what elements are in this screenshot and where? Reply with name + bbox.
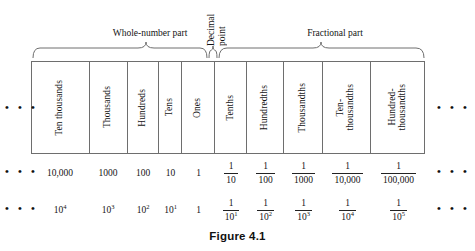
power-of-ten-3: 101 bbox=[159, 194, 182, 226]
ellipsis-values-left: • • • bbox=[5, 165, 38, 177]
exponent: 5 bbox=[402, 209, 405, 216]
exponent: 4 bbox=[63, 203, 66, 210]
place-value-table: Ten thousandsThousandsHundredsTensOnesTe… bbox=[31, 61, 425, 154]
place-value-4: 1 bbox=[182, 156, 215, 190]
power-of-ten-9: 1105 bbox=[372, 194, 425, 226]
place-value-9: 1100,000 bbox=[372, 156, 425, 190]
place-value-6: 1100 bbox=[247, 156, 284, 190]
fraction-denominator: 10,000 bbox=[332, 175, 362, 185]
exponent: 1 bbox=[174, 203, 177, 210]
powers-of-ten-row: 104103102101111011102110311041105 bbox=[31, 194, 425, 226]
power-of-ten-1: 103 bbox=[89, 194, 127, 226]
value-text: 1 bbox=[196, 168, 201, 178]
place-value-8: 110,000 bbox=[323, 156, 372, 190]
whole-number-brace bbox=[33, 42, 207, 58]
place-value-0: 10,000 bbox=[31, 156, 89, 190]
fraction-numerator: 1 bbox=[299, 161, 308, 171]
place-value-column-6: Hundredths bbox=[247, 62, 284, 153]
power-of-ten-2: 102 bbox=[127, 194, 159, 226]
ellipsis-values-right: • • • bbox=[437, 165, 470, 177]
fraction-numerator: 1 bbox=[343, 161, 352, 171]
power-of-ten-4: 1 bbox=[182, 194, 215, 226]
column-label: Ten- thousandths bbox=[336, 84, 356, 131]
exponent: 4 bbox=[351, 209, 354, 216]
power-text: 102 bbox=[137, 205, 150, 215]
ellipsis-powers-right: • • • bbox=[437, 202, 470, 214]
whole-number-part-label: Whole-number part bbox=[80, 28, 220, 38]
column-label: Hundreds bbox=[138, 89, 148, 127]
fraction-numerator: 1 bbox=[299, 198, 308, 208]
ellipsis-powers-left: • • • bbox=[5, 202, 38, 214]
place-value-column-0: Ten thousands bbox=[32, 62, 90, 153]
column-label: Tens bbox=[165, 98, 175, 116]
column-label: Tenths bbox=[226, 95, 236, 121]
power-of-ten-0: 104 bbox=[31, 194, 89, 226]
fraction-denominator: 10 bbox=[224, 175, 238, 185]
power-of-ten-7: 1103 bbox=[284, 194, 323, 226]
place-value-column-5: Tenths bbox=[215, 62, 247, 153]
place-value-column-8: Ten- thousandths bbox=[323, 62, 372, 153]
exponent: 3 bbox=[307, 209, 310, 216]
place-value-column-2: Hundreds bbox=[128, 62, 160, 153]
decimal-point-label-line1: Decimal bbox=[206, 6, 216, 46]
fraction-numerator: 1 bbox=[394, 161, 403, 171]
fraction: 1103 bbox=[295, 198, 312, 221]
fraction-denominator: 1000 bbox=[292, 175, 315, 185]
fraction-bar bbox=[292, 173, 315, 174]
fraction: 110 bbox=[224, 161, 238, 184]
value-text: 1000 bbox=[99, 168, 118, 178]
column-label: Thousandths bbox=[298, 83, 308, 133]
place-value-column-9: Hundred- thousandths bbox=[371, 62, 424, 153]
place-value-2: 100 bbox=[127, 156, 159, 190]
fraction-denominator: 100,000 bbox=[381, 175, 416, 185]
fraction: 1105 bbox=[390, 198, 407, 221]
fraction-denominator: 104 bbox=[339, 212, 356, 222]
column-label: Ten thousands bbox=[55, 80, 65, 136]
power-text: 101 bbox=[164, 205, 177, 215]
fraction-denominator: 102 bbox=[257, 212, 274, 222]
place-value-5: 110 bbox=[215, 156, 247, 190]
fraction-bar bbox=[256, 173, 274, 174]
value-text: 10,000 bbox=[47, 168, 73, 178]
decimal-point-brace bbox=[209, 46, 217, 58]
column-label: Hundred- thousandths bbox=[388, 84, 408, 131]
fractional-part-brace bbox=[219, 42, 424, 58]
fraction-bar bbox=[224, 173, 238, 174]
exponent: 2 bbox=[269, 209, 272, 216]
place-value-column-1: Thousands bbox=[90, 62, 128, 153]
fraction-denominator: 100 bbox=[256, 175, 274, 185]
place-value-column-4: Ones bbox=[182, 62, 215, 153]
power-of-ten-6: 1102 bbox=[247, 194, 284, 226]
power-of-ten-8: 1104 bbox=[323, 194, 372, 226]
column-label: Hundredths bbox=[260, 85, 270, 130]
fraction: 1104 bbox=[339, 198, 356, 221]
place-value-column-3: Tens bbox=[159, 62, 182, 153]
fraction-denominator: 101 bbox=[223, 212, 240, 222]
place-value-chart-figure: Whole-number part Fractional part Decima… bbox=[0, 0, 475, 251]
column-label: Thousands bbox=[103, 86, 113, 128]
place-value-7: 11000 bbox=[284, 156, 323, 190]
fraction-denominator: 105 bbox=[390, 212, 407, 222]
value-text: 100 bbox=[136, 168, 150, 178]
fraction: 1101 bbox=[223, 198, 240, 221]
ellipsis-table-right: • • • bbox=[437, 101, 470, 113]
fraction-numerator: 1 bbox=[261, 161, 270, 171]
decimal-point-label-line2: point bbox=[217, 6, 227, 46]
place-value-3: 10 bbox=[159, 156, 182, 190]
power-text: 103 bbox=[102, 205, 115, 215]
place-value-1: 1000 bbox=[89, 156, 127, 190]
exponent: 3 bbox=[111, 203, 114, 210]
fraction-numerator: 1 bbox=[343, 198, 352, 208]
fraction-denominator: 103 bbox=[295, 212, 312, 222]
fractional-part-label: Fractional part bbox=[250, 28, 420, 38]
place-value-column-7: Thousandths bbox=[284, 62, 323, 153]
fraction: 1102 bbox=[257, 198, 274, 221]
exponent: 2 bbox=[146, 203, 149, 210]
power-text: 104 bbox=[54, 205, 67, 215]
figure-caption: Figure 4.1 bbox=[0, 230, 475, 242]
value-text: 10 bbox=[166, 168, 176, 178]
exponent: 1 bbox=[234, 209, 237, 216]
fraction-numerator: 1 bbox=[394, 198, 403, 208]
fraction: 110,000 bbox=[332, 161, 362, 184]
fraction: 1100 bbox=[256, 161, 274, 184]
